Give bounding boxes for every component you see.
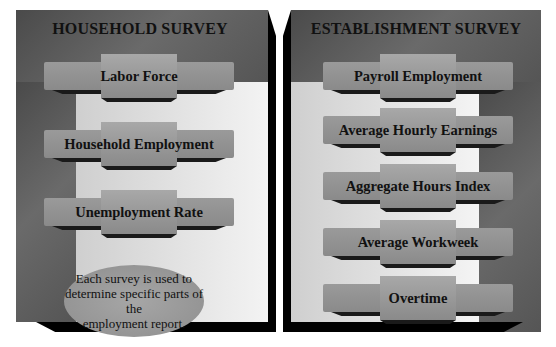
note-line: determine specific parts of the — [64, 286, 204, 316]
establishment-item-aggregate-hours-index: Aggregate Hours Index — [323, 164, 513, 208]
item-label: Average Workweek — [323, 228, 513, 256]
item-label: Unemployment Rate — [44, 198, 234, 226]
establishment-item-overtime: Overtime — [323, 276, 513, 320]
item-label: Household Employment — [44, 130, 234, 158]
household-survey-title: HOUSEHOLD SURVEY — [16, 20, 264, 38]
item-label: Payroll Employment — [323, 62, 513, 90]
household-survey-panel: HOUSEHOLD SURVEY Labor Force Household E… — [16, 10, 272, 332]
household-item-unemployment-rate: Unemployment Rate — [44, 190, 234, 234]
establishment-survey-title: ESTABLISHMENT SURVEY — [291, 20, 541, 38]
establishment-item-average-workweek: Average Workweek — [323, 220, 513, 264]
note-line: Each survey is used to — [76, 271, 192, 286]
item-label: Aggregate Hours Index — [323, 172, 513, 200]
establishment-item-payroll-employment: Payroll Employment — [323, 54, 513, 98]
panel-edge — [283, 10, 291, 332]
establishment-item-average-hourly-earnings: Average Hourly Earnings — [323, 108, 513, 152]
household-item-household-employment: Household Employment — [44, 122, 234, 166]
survey-note-oval: Each survey is used to determine specifi… — [64, 265, 204, 337]
establishment-survey-panel: ESTABLISHMENT SURVEY Payroll Employment … — [283, 10, 541, 332]
item-label: Overtime — [323, 284, 513, 312]
household-item-labor-force: Labor Force — [44, 54, 234, 98]
item-label: Labor Force — [44, 62, 234, 90]
note-line: employment report. — [83, 316, 186, 331]
panel-edge — [268, 10, 276, 332]
item-label: Average Hourly Earnings — [323, 116, 513, 144]
